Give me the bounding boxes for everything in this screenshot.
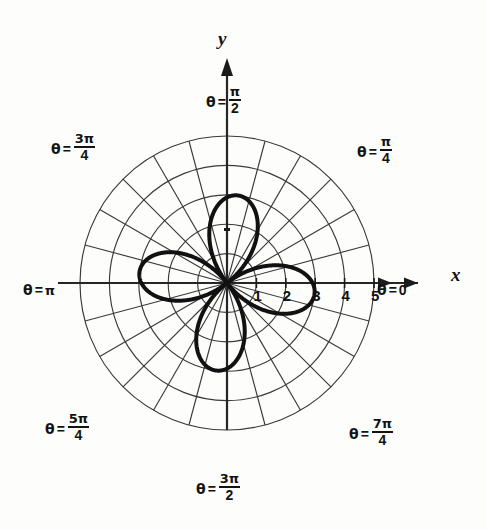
fraction: π 2 [229,85,241,116]
equals-sign: = [61,141,73,157]
fraction-denominator: 2 [219,488,240,502]
angle-value: π [45,283,55,298]
radial-tick-label-2: 2 [283,287,291,304]
fraction-numerator: 3π [219,472,240,485]
grid-spoke-240deg [154,283,228,410]
theta-symbol: θ [357,144,367,160]
y-axis-arrowhead [221,58,233,76]
figure-canvas: x y θ=0 θ= π 4 θ= π 2 θ= 3π 4 θ=π θ= [0,0,487,530]
fraction: π 4 [380,135,392,166]
angle-label-theta-pi-4: θ= π 4 [357,135,392,166]
equals-sign: = [33,282,45,298]
equals-sign: = [387,282,399,298]
fraction-denominator: 4 [380,151,392,165]
fraction-numerator: π [229,85,241,98]
radial-tick-label-5: 5 [371,287,379,304]
fraction: 5π 4 [68,412,89,443]
theta-symbol: θ [349,426,359,442]
angle-label-theta-pi: θ=π [23,283,55,297]
fraction-denominator: 4 [74,148,95,162]
theta-symbol: θ [51,141,61,157]
angle-label-theta-5pi-4: θ= 5π 4 [45,412,89,443]
theta-symbol: θ [196,481,206,497]
polar-plot-svg [0,0,487,530]
angle-label-theta-3pi-4: θ= 3π 4 [51,132,95,163]
fraction-numerator: 5π [68,412,89,425]
theta-symbol: θ [206,94,216,110]
radial-tick-label-4: 4 [342,287,350,304]
fraction: 3π 4 [74,132,95,163]
fraction-denominator: 4 [372,433,393,447]
fraction-numerator: π [380,135,392,148]
x-axis-label: x [451,264,461,286]
equals-sign: = [216,94,228,110]
grid-spoke-15deg [227,245,369,283]
theta-symbol: θ [23,282,33,298]
radial-tick-label-3: 3 [312,287,320,304]
fraction: 7π 4 [372,417,393,448]
theta-symbol: θ [45,421,55,437]
fraction: 3π 2 [219,472,240,503]
angle-label-theta-pi-2: θ= π 2 [206,85,241,116]
angle-label-theta-7pi-4: θ= 7π 4 [349,417,393,448]
equals-sign: = [359,426,371,442]
grid-spoke-195deg [85,283,227,321]
fraction-denominator: 4 [68,428,89,442]
angle-value: 0 [399,282,407,298]
angle-label-theta-3pi-2: θ= 3π 2 [196,472,240,503]
y-axis-label: y [218,28,226,50]
fraction-denominator: 2 [229,101,241,115]
equals-sign: = [367,144,379,160]
petal-interior-mark [224,228,230,231]
fraction-numerator: 3π [74,132,95,145]
radial-tick-label-1: 1 [253,287,261,304]
equals-sign: = [206,481,218,497]
angle-label-theta-0: θ=0 [377,283,407,297]
fraction-numerator: 7π [372,417,393,430]
grid-spoke-60deg [227,156,301,283]
equals-sign: = [55,421,67,437]
grid-spoke-285deg [227,283,265,425]
grid-spoke-105deg [189,141,227,283]
grid-spoke-150deg [100,210,227,284]
